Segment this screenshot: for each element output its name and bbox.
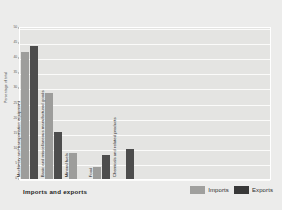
legend-entry-exports: Exports	[234, 186, 273, 194]
bar-group: Mineral fuels	[69, 28, 93, 179]
bar-exports	[54, 132, 62, 179]
bars-layer: Machinery and transportation equipmentBa…	[19, 27, 271, 180]
bar-imports	[93, 167, 101, 179]
y-tick-label: 35	[13, 72, 17, 75]
y-tick-label: 40	[13, 56, 17, 59]
legend-swatch-imports-icon	[190, 186, 205, 194]
y-tick-label: 45	[13, 41, 17, 44]
legend-label-imports: Imports	[208, 187, 229, 193]
y-axis-title: Percentage of total	[4, 72, 8, 103]
bar-exports	[126, 149, 134, 179]
category-label: Food	[89, 167, 93, 177]
bar-imports	[69, 153, 77, 179]
chart-figure: 05101520253035404550 Percentage of total…	[0, 0, 282, 210]
bar-exports	[102, 155, 110, 179]
legend-swatch-exports-icon	[234, 186, 249, 194]
category-label: Chemicals and related products	[113, 117, 117, 177]
bar-imports	[45, 93, 53, 179]
category-label: Mineral fuels	[65, 153, 69, 177]
legend-entry-imports: Imports	[190, 186, 229, 194]
chart-title: Imports and exports	[23, 188, 87, 195]
category-label: Machinery and transportation equipment	[17, 101, 21, 177]
bar-exports	[30, 46, 38, 179]
category-label: Basic and miscellaneous manufactured goo…	[41, 90, 45, 177]
legend: Imports Exports	[190, 186, 273, 194]
bar-imports	[21, 52, 29, 179]
bar-group: Chemicals and related products	[117, 28, 141, 179]
gridline	[20, 180, 270, 181]
y-tick-label: 50	[13, 26, 17, 29]
y-tick-label: 30	[13, 87, 17, 90]
legend-label-exports: Exports	[252, 187, 273, 193]
